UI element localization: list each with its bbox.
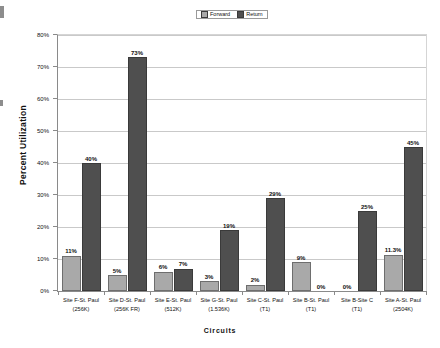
bar-group: 6%7% — [150, 35, 196, 291]
x-tick-mark — [150, 291, 151, 295]
y-tick-label: 30% — [37, 192, 49, 198]
bar-value-label: 0% — [317, 284, 326, 290]
x-category-line-1: Site A-St. Paul — [380, 296, 426, 305]
x-category-label: Site A-St. Paul(2504K) — [380, 296, 426, 313]
y-tick-mark — [53, 98, 57, 99]
y-tick-mark — [53, 194, 57, 195]
x-category-line-2: (256K FR) — [104, 305, 150, 314]
bar-rect[interactable] — [358, 211, 377, 291]
bar-return[interactable]: 73% — [128, 35, 147, 291]
x-category-line-2: (T1) — [334, 305, 380, 314]
x-category-line-1: Site E-St. Paul — [150, 296, 196, 305]
scan-artifact-top-left — [0, 6, 4, 18]
x-category-line-2: (1.536K) — [196, 305, 242, 314]
bar-forward[interactable]: 6% — [154, 35, 173, 291]
bar-value-label: 45% — [407, 140, 419, 146]
x-axis-title: Circuits — [0, 327, 440, 334]
bar-forward[interactable]: 3% — [200, 35, 219, 291]
y-tick-mark — [53, 162, 57, 163]
x-tick-mark — [104, 291, 105, 295]
y-tick-label: 40% — [37, 160, 49, 166]
bar-return[interactable]: 45% — [404, 35, 423, 291]
legend-label-return: Return — [246, 12, 263, 18]
x-tick-mark — [334, 291, 335, 295]
bar-group: 0%25% — [334, 35, 380, 291]
x-tick-mark — [426, 291, 427, 295]
y-tick-label: 20% — [37, 224, 49, 230]
x-axis-category-labels: Site F-St. Paul(256K)Site D-St. Paul(256… — [58, 296, 426, 324]
bar-value-label: 19% — [223, 223, 235, 229]
bar-rect[interactable] — [82, 163, 101, 291]
bar-return[interactable]: 0% — [312, 35, 331, 291]
legend-swatch-return — [237, 11, 244, 18]
x-tick-mark — [380, 291, 381, 295]
x-category-line-1: Site D-St. Paul — [104, 296, 150, 305]
x-category-line-1: Site B-Site C — [334, 296, 380, 305]
bar-rect[interactable] — [266, 198, 285, 291]
x-category-line-2: (T1) — [288, 305, 334, 314]
bar-value-label: 73% — [131, 50, 143, 56]
bar-rect[interactable] — [246, 285, 265, 291]
bar-rect[interactable] — [220, 230, 239, 291]
bar-forward[interactable]: 11.3% — [384, 35, 403, 291]
x-category-line-1: Site F-St. Paul — [58, 296, 104, 305]
x-category-label: Site B-Site C(T1) — [334, 296, 380, 313]
bar-forward[interactable]: 9% — [292, 35, 311, 291]
bar-value-label: 40% — [85, 156, 97, 162]
legend-item-return: Return — [237, 11, 263, 18]
x-category-line-2: (512K) — [150, 305, 196, 314]
legend-swatch-forward — [201, 11, 208, 18]
legend-item-forward: Forward — [201, 11, 230, 18]
bar-value-label: 0% — [343, 284, 352, 290]
y-tick-label: 70% — [37, 64, 49, 70]
bar-value-label: 7% — [179, 261, 188, 267]
x-category-line-2: (T1) — [242, 305, 288, 314]
bar-return[interactable]: 7% — [174, 35, 193, 291]
bar-value-label: 11% — [65, 248, 77, 254]
bar-rect[interactable] — [108, 275, 127, 291]
bar-return[interactable]: 25% — [358, 35, 377, 291]
bar-return[interactable]: 29% — [266, 35, 285, 291]
bar-return[interactable]: 40% — [82, 35, 101, 291]
y-axis-tick-labels: 80%70%60%50%40%30%20%10%0% — [26, 34, 53, 292]
bar-value-label: 9% — [297, 255, 306, 261]
bar-rect[interactable] — [200, 281, 219, 291]
y-tick-mark — [53, 34, 57, 35]
y-tick-label: 0% — [40, 288, 49, 294]
bar-group: 11%40% — [58, 35, 104, 291]
bar-group: 2%29% — [242, 35, 288, 291]
bar-value-label: 6% — [159, 264, 168, 270]
bar-series-container: 11%40%5%73%6%7%3%19%2%29%9%0%0%25%11.3%4… — [58, 35, 426, 291]
x-tick-mark — [242, 291, 243, 295]
legend-label-forward: Forward — [210, 12, 230, 18]
bar-rect[interactable] — [128, 57, 147, 291]
bar-return[interactable]: 19% — [220, 35, 239, 291]
y-tick-label: 10% — [37, 256, 49, 262]
bar-forward[interactable]: 11% — [62, 35, 81, 291]
x-category-label: Site F-St. Paul(256K) — [58, 296, 104, 313]
bar-value-label: 11.3% — [385, 247, 402, 253]
x-category-line-2: (2504K) — [380, 305, 426, 314]
bar-rect[interactable] — [62, 256, 81, 291]
bar-group: 5%73% — [104, 35, 150, 291]
bar-rect[interactable] — [154, 272, 173, 291]
bar-rect[interactable] — [292, 262, 311, 291]
bar-rect[interactable] — [384, 255, 403, 291]
x-category-line-1: Site G-St. Paul — [196, 296, 242, 305]
x-tick-mark — [196, 291, 197, 295]
y-tick-label: 60% — [37, 96, 49, 102]
bar-rect[interactable] — [174, 269, 193, 291]
bar-forward[interactable]: 2% — [246, 35, 265, 291]
bar-value-label: 5% — [113, 268, 122, 274]
y-tick-label: 80% — [37, 32, 49, 38]
x-category-label: Site E-St. Paul(512K) — [150, 296, 196, 313]
bar-rect[interactable] — [404, 147, 423, 291]
bar-forward[interactable]: 5% — [108, 35, 127, 291]
bar-value-label: 2% — [251, 277, 260, 283]
bar-value-label: 29% — [269, 191, 281, 197]
bar-group: 9%0% — [288, 35, 334, 291]
x-category-line-1: Site C-St. Paul — [242, 296, 288, 305]
x-category-line-2: (256K) — [58, 305, 104, 314]
bar-forward[interactable]: 0% — [338, 35, 357, 291]
y-tick-mark — [53, 290, 57, 291]
